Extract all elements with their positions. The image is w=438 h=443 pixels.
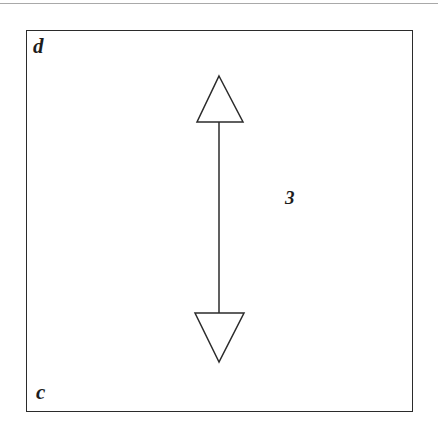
vertex-label-d: d bbox=[33, 36, 44, 57]
vertex-label-c: c bbox=[36, 382, 45, 403]
page-top-rule bbox=[0, 3, 438, 4]
rectangle-outline bbox=[26, 30, 413, 412]
dimension-label-3: 3 bbox=[285, 188, 295, 207]
figure-page: d c 3 bbox=[0, 0, 438, 443]
